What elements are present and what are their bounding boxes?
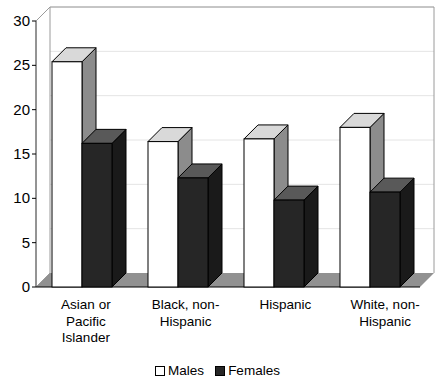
x-category-label-line: Pacific: [36, 314, 136, 331]
x-category-label-2: Black, non-Hispanic: [136, 297, 236, 357]
legend-item-males[interactable]: Males: [155, 363, 204, 378]
bar-females-4-side: [400, 178, 414, 287]
bar-females-1-front: [82, 143, 112, 287]
y-tick-label: 10: [4, 190, 30, 205]
y-tick-label: 0: [4, 279, 30, 294]
black-square-swatch: [215, 366, 225, 376]
chart-legend: MalesFemales: [0, 360, 435, 381]
bar-females-2-side: [208, 164, 222, 287]
x-category-label-4: White, non-Hispanic: [335, 297, 435, 357]
white-square-swatch: [155, 366, 165, 376]
x-category-label-line: Hispanic: [335, 314, 435, 331]
bar-females-2-front: [178, 178, 208, 287]
bar-females-3-front: [274, 200, 304, 287]
bar-males-1-front: [52, 62, 82, 287]
bar-females-4-front: [370, 192, 400, 287]
x-axis: Asian orPacificIslanderBlack, non-Hispan…: [36, 297, 435, 357]
bar-chart: 302520151050 Asian orPacificIslanderBlac…: [0, 0, 435, 381]
legend-item-females[interactable]: Females: [215, 363, 280, 378]
y-tick-label: 15: [4, 146, 30, 161]
x-category-label-line: Hispanic: [236, 297, 336, 314]
x-category-label-line: Islander: [36, 330, 136, 347]
y-axis: 302520151050: [0, 0, 30, 381]
x-category-label-line: Hispanic: [136, 314, 236, 331]
bar-females-3-side: [304, 186, 318, 287]
bar-females-1-side: [112, 129, 126, 287]
y-tick-label: 30: [4, 13, 30, 28]
y-axis-wall: [36, 7, 50, 287]
legend-item-label: Females: [228, 363, 280, 378]
y-tick-label: 5: [4, 235, 30, 250]
x-category-label-line: Asian or: [36, 297, 136, 314]
legend-item-label: Males: [168, 363, 204, 378]
bar-males-3-front: [244, 139, 274, 287]
y-tick-label: 25: [4, 57, 30, 72]
x-category-label-1: Asian orPacificIslander: [36, 297, 136, 357]
x-category-label-line: Black, non-: [136, 297, 236, 314]
bar-males-4-front: [340, 127, 370, 287]
bar-males-2-front: [148, 142, 178, 287]
x-category-label-3: Hispanic: [236, 297, 336, 357]
x-category-label-line: White, non-: [335, 297, 435, 314]
y-tick-label: 20: [4, 102, 30, 117]
